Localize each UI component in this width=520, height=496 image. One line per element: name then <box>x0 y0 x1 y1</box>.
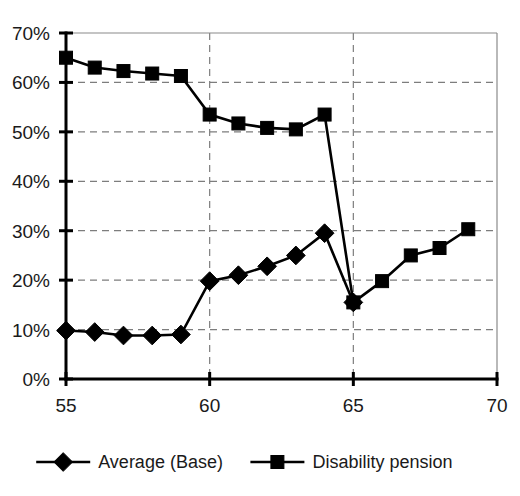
x-axis-tick-label: 70 <box>486 395 507 416</box>
data-point-marker <box>289 123 302 136</box>
line-chart: 0%10%20%30%40%50%60%70% 55606570 Average… <box>0 0 520 496</box>
data-point-marker <box>462 223 475 236</box>
y-axis-tick-label: 10% <box>12 320 50 341</box>
y-axis-tick-label: 70% <box>12 23 50 44</box>
legend-marker-square <box>271 456 284 469</box>
y-axis-tick-label: 0% <box>23 369 51 390</box>
chart-container: 0%10%20%30%40%50%60%70% 55606570 Average… <box>0 0 520 496</box>
x-axis-tick-label: 65 <box>343 395 364 416</box>
data-point-marker <box>146 67 159 80</box>
data-point-marker <box>261 121 274 134</box>
x-axis-tick-label: 55 <box>55 395 76 416</box>
y-axis-tick-label: 60% <box>12 72 50 93</box>
data-point-marker <box>433 242 446 255</box>
y-axis-tick-label: 20% <box>12 270 50 291</box>
y-axis-tick-label: 40% <box>12 171 50 192</box>
data-point-marker <box>404 249 417 262</box>
y-axis-tick-label: 50% <box>12 122 50 143</box>
data-point-marker <box>174 70 187 83</box>
data-point-marker <box>318 108 331 121</box>
legend-label: Average (Base) <box>98 452 223 472</box>
y-axis-tick-label: 30% <box>12 221 50 242</box>
data-point-marker <box>117 65 130 78</box>
data-point-marker <box>232 117 245 130</box>
data-point-marker <box>88 61 101 74</box>
data-point-marker <box>203 108 216 121</box>
legend-item-2[interactable]: Disability pension <box>250 452 452 472</box>
data-point-marker <box>347 296 360 309</box>
x-axis-tick-label: 60 <box>199 395 220 416</box>
legend-item-1[interactable]: Average (Base) <box>36 452 223 472</box>
legend-label: Disability pension <box>312 452 452 472</box>
data-point-marker <box>60 51 73 64</box>
data-point-marker <box>376 275 389 288</box>
